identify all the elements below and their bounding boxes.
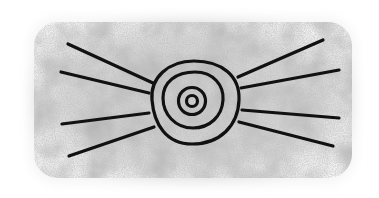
petroglyph-image (0, 0, 379, 198)
stone-texture (30, 18, 355, 183)
